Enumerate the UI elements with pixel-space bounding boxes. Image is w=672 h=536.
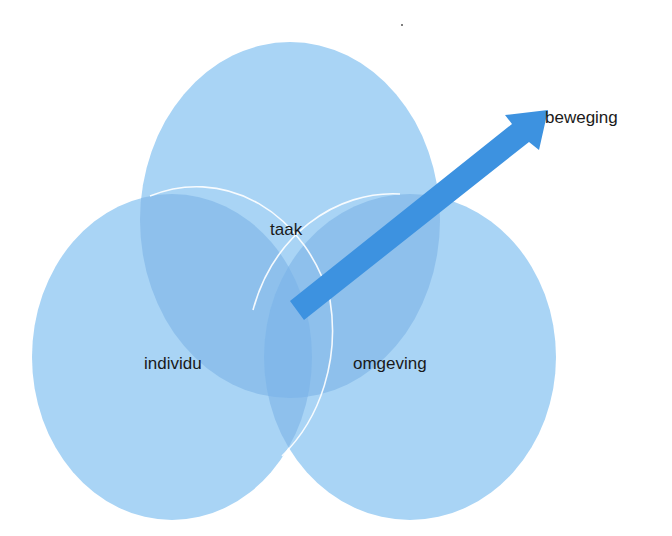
label-beweging: beweging bbox=[545, 109, 618, 126]
diagram-canvas: taak individu omgeving beweging bbox=[0, 0, 672, 536]
stray-dot bbox=[401, 24, 403, 26]
label-taak: taak bbox=[270, 221, 302, 238]
venn-diagram bbox=[0, 0, 672, 536]
label-omgeving: omgeving bbox=[353, 355, 427, 372]
label-individu: individu bbox=[144, 355, 202, 372]
